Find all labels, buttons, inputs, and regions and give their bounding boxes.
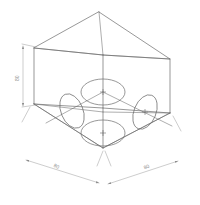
height-extension-top <box>22 44 36 47</box>
isometric-technical-drawing <box>0 0 200 205</box>
width-dimension-line <box>26 160 99 183</box>
base-edge-right <box>103 113 170 148</box>
height-dimension-label: 80 <box>15 75 20 81</box>
left-circle <box>55 90 89 132</box>
cube-outline <box>34 12 170 148</box>
diag-topface-to-apex <box>99 12 103 55</box>
depth-extension-left <box>105 151 111 166</box>
diag-topface-to-right <box>103 55 170 59</box>
dimension-lines <box>22 44 181 184</box>
cube-bottom-back-left <box>34 104 103 108</box>
height-extension-bottom <box>22 105 36 107</box>
cube-top-face <box>34 12 170 59</box>
center-mark-top <box>100 89 106 95</box>
width-extension-right <box>97 151 103 166</box>
center-mark-bottom <box>100 130 106 136</box>
center-mark-right <box>142 109 148 115</box>
width-extension-left <box>22 107 30 122</box>
depth-extension-right <box>173 116 181 131</box>
drawing-canvas: 80 80 80 <box>0 0 200 205</box>
diag-topface-to-left <box>34 48 103 55</box>
cube-bottom-face <box>34 104 170 148</box>
